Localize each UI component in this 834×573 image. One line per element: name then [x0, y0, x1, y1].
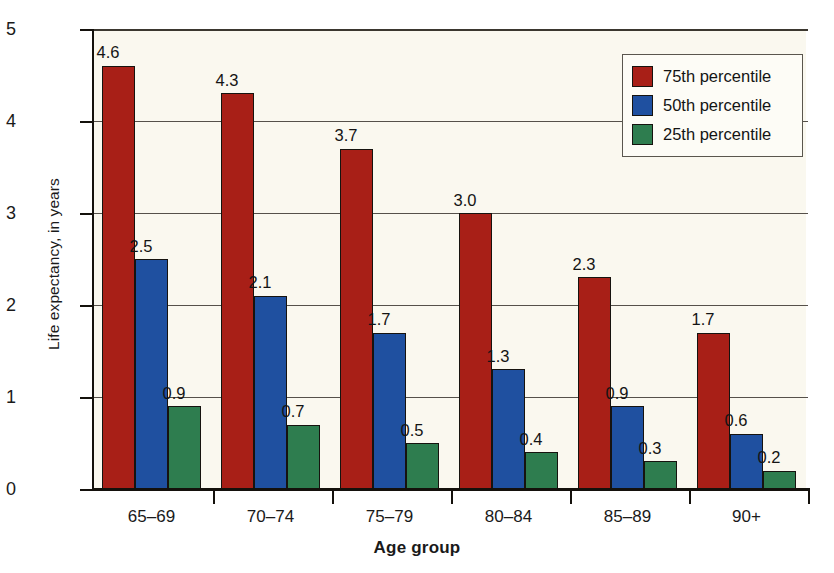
bar[interactable]	[763, 471, 796, 489]
legend-label: 75th percentile	[663, 68, 771, 85]
bar-group: 4.62.50.9	[102, 29, 201, 489]
x-category-label: 85–89	[568, 508, 687, 525]
x-tick-mark	[808, 489, 810, 504]
legend-label: 25th percentile	[663, 126, 771, 143]
bar-column: 3.0	[459, 29, 492, 489]
bar-column: 0.9	[168, 29, 201, 489]
y-tick-label: 3	[0, 204, 16, 222]
legend-item[interactable]: 25th percentile	[632, 120, 794, 149]
bar-column: 2.5	[135, 29, 168, 489]
x-category-label: 90+	[687, 508, 806, 525]
bar-value-label: 0.3	[639, 440, 699, 457]
bar-set: 3.01.30.4	[459, 29, 558, 489]
y-tick-label: 5	[0, 20, 16, 38]
bar-column: 2.3	[578, 29, 611, 489]
bar-chart: Life expectancy, in years 4.62.50.94.32.…	[0, 0, 834, 573]
bar-value-label: 0.9	[163, 385, 223, 402]
y-tick-mark	[80, 213, 94, 215]
x-tick-mark	[332, 489, 334, 504]
bar-value-label: 0.2	[758, 449, 818, 466]
bar-group: 3.71.70.5	[340, 29, 439, 489]
bar-column: 4.3	[221, 29, 254, 489]
bar[interactable]	[644, 461, 677, 489]
x-tick-mark	[451, 489, 453, 504]
bar-column: 0.7	[287, 29, 320, 489]
bar[interactable]	[135, 259, 168, 489]
x-category-label: 75–79	[330, 508, 449, 525]
bar-column: 3.7	[340, 29, 373, 489]
bar-column: 0.5	[406, 29, 439, 489]
y-tick-label: 2	[0, 296, 16, 314]
bar-group: 4.32.10.7	[221, 29, 320, 489]
y-tick-mark	[80, 121, 94, 123]
y-tick-label: 0	[0, 480, 16, 498]
legend-item[interactable]: 50th percentile	[632, 91, 794, 120]
y-tick-label: 1	[0, 388, 16, 406]
x-category-label: 65–69	[92, 508, 211, 525]
bar[interactable]	[221, 93, 254, 489]
y-tick-mark	[80, 305, 94, 307]
legend-swatch-50th-percentile	[632, 95, 653, 116]
bar-value-label: 0.4	[520, 431, 580, 448]
bar-column: 1.7	[373, 29, 406, 489]
x-tick-mark	[570, 489, 572, 504]
bar-set: 4.62.50.9	[102, 29, 201, 489]
bar[interactable]	[102, 66, 135, 489]
bar-column: 2.1	[254, 29, 287, 489]
bar-value-label: 0.5	[401, 422, 461, 439]
bar[interactable]	[287, 425, 320, 489]
bar-set: 4.32.10.7	[221, 29, 320, 489]
x-tick-mark	[213, 489, 215, 504]
bar[interactable]	[406, 443, 439, 489]
bar[interactable]	[525, 452, 558, 489]
bar-column: 1.3	[492, 29, 525, 489]
y-tick-mark	[80, 29, 94, 31]
legend-label: 50th percentile	[663, 97, 771, 114]
bar-set: 3.71.70.5	[340, 29, 439, 489]
bar-value-label: 0.7	[282, 403, 342, 420]
bar-group: 3.01.30.4	[459, 29, 558, 489]
legend: 75th percentile 50th percentile 25th per…	[622, 54, 803, 157]
y-tick-mark	[80, 397, 94, 399]
x-category-label: 70–74	[211, 508, 330, 525]
bar[interactable]	[168, 406, 201, 489]
bar-column: 0.4	[525, 29, 558, 489]
bar-column: 4.6	[102, 29, 135, 489]
legend-swatch-75th-percentile	[632, 66, 653, 87]
x-category-label: 80–84	[449, 508, 568, 525]
legend-item[interactable]: 75th percentile	[632, 62, 794, 91]
x-axis-title: Age group	[0, 538, 834, 558]
bar[interactable]	[373, 333, 406, 489]
legend-swatch-25th-percentile	[632, 124, 653, 145]
y-tick-label: 4	[0, 112, 16, 130]
x-axis-line	[92, 488, 810, 491]
x-tick-mark	[689, 489, 691, 504]
y-axis-title: Life expectancy, in years	[45, 114, 63, 414]
bar[interactable]	[254, 296, 287, 489]
